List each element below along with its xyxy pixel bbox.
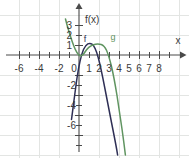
- y-tick-label--2: -2: [67, 80, 76, 91]
- x-tick-label-1: 1: [86, 63, 92, 74]
- y-tick-label-1: 1: [66, 40, 72, 51]
- x-tick-labels: -6 -4 -2 0 1 2 3 4 5 6 7 8: [15, 63, 163, 74]
- y-axis-name: f(x): [85, 14, 99, 25]
- x-tick-label-7: 7: [146, 63, 152, 74]
- y-tick-label--4: -4: [67, 100, 76, 111]
- chart-container: -6 -4 -2 0 1 2 3 4 5 6 7 8 3 2 1 -2 -4 -…: [0, 0, 189, 158]
- x-tick-label-5: 5: [126, 63, 132, 74]
- x-tick-label-0: 0: [71, 63, 77, 74]
- x-tick-label-2: 2: [96, 63, 102, 74]
- x-tick-label-6: 6: [136, 63, 142, 74]
- curve-label-g: g: [110, 32, 115, 42]
- x-tick-label--6: -6: [15, 63, 24, 74]
- x-tick-label--2: -2: [55, 63, 64, 74]
- y-tick-label--6: -6: [67, 120, 76, 131]
- coordinate-plot: -6 -4 -2 0 1 2 3 4 5 6 7 8 3 2 1 -2 -4 -…: [0, 0, 189, 158]
- x-tick-label-3: 3: [106, 63, 112, 74]
- x-axis-name: x: [176, 35, 181, 46]
- x-tick-label--4: -4: [35, 63, 44, 74]
- x-tick-label-4: 4: [116, 63, 122, 74]
- x-tick-label-8: 8: [156, 63, 162, 74]
